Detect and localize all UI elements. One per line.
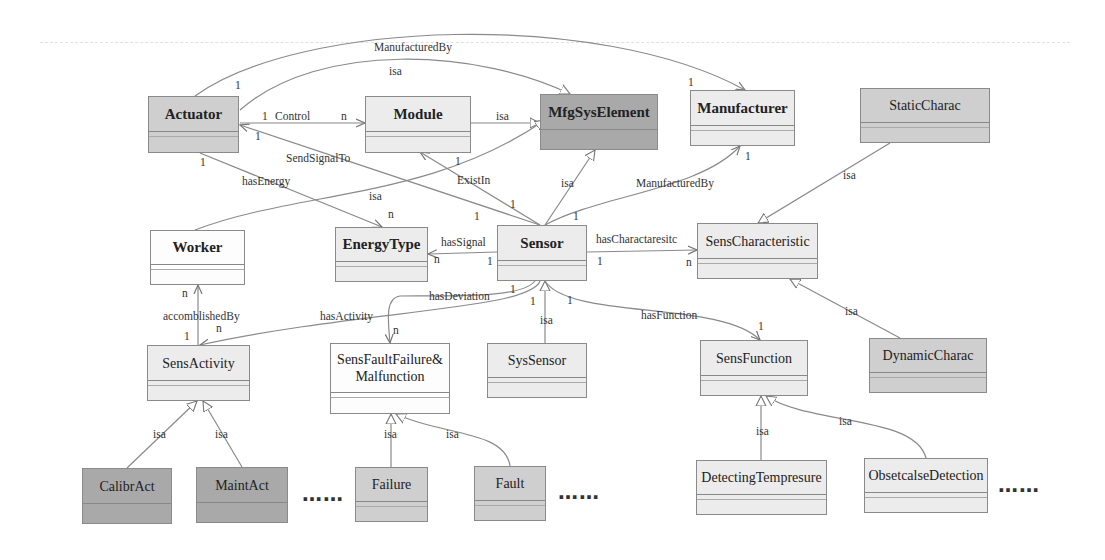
class-name: ObsetcalseDetection [865, 459, 987, 492]
class-name: SensFunction [701, 341, 807, 375]
mult: 1 [255, 130, 261, 142]
class-manufacturer[interactable]: Manufacturer [690, 90, 795, 146]
label-isa-calibr: isa [153, 428, 166, 440]
mult: 1 [487, 255, 493, 267]
mult: 1 [184, 330, 190, 342]
mult: 1 [745, 150, 751, 162]
mult: n [341, 110, 347, 122]
edge-fault-isa [396, 414, 510, 466]
class-name: EnergyType [336, 228, 427, 261]
class-name: Worker [151, 231, 244, 264]
class-sensactivity[interactable]: SensActivity [147, 345, 250, 401]
mult: 1 [573, 210, 579, 222]
label-hasenergy: hasEnergy [242, 175, 290, 187]
mult: 1 [510, 283, 516, 295]
class-name: Fault [475, 467, 545, 500]
label-accomblishedby: accomblishedBy [163, 310, 240, 322]
edge-hascharacteristic [587, 250, 697, 252]
mult: 1 [262, 110, 268, 122]
class-name: StaticCharac [861, 89, 989, 122]
edge-hasenergy [200, 153, 382, 227]
class-sensfaultfailure-malfunction[interactable]: SensFaultFailure& Malfunction [330, 343, 450, 414]
label-sendsignalto: SendSignalTo [286, 152, 350, 164]
label-isa-module: isa [496, 110, 509, 122]
class-name-line1: SensFaultFailure& [337, 351, 443, 368]
more-activities-ellipsis: …… [302, 482, 344, 506]
class-syssensor[interactable]: SysSensor [487, 343, 587, 398]
more-faults-ellipsis: …… [558, 480, 600, 504]
edge-static-isa [758, 143, 890, 223]
mult: 1 [567, 294, 573, 306]
mult: n [182, 287, 188, 299]
label-isa-static: isa [843, 169, 856, 181]
class-detectingtempresure[interactable]: DetectingTempresure [696, 460, 827, 515]
edge-actuator-manufacturedby [195, 34, 745, 96]
class-name: SysSensor [488, 344, 586, 377]
class-mfgsyselement[interactable]: MfgSysElement [540, 94, 658, 150]
class-name: Module [366, 97, 470, 131]
class-name: MaintAct [197, 468, 287, 502]
mult: 1 [455, 155, 461, 167]
mult: n [393, 324, 399, 336]
class-calibract[interactable]: CalibrAct [82, 468, 172, 524]
class-failure[interactable]: Failure [355, 467, 428, 522]
class-obsetcalsedetection[interactable]: ObsetcalseDetection [864, 458, 988, 513]
mult: 1 [758, 320, 764, 332]
mult: 1 [200, 156, 206, 168]
class-senscharacteristic[interactable]: SensCharacteristic [697, 223, 818, 279]
mult: 1 [474, 210, 480, 222]
class-name-line2: Malfunction [355, 368, 424, 385]
class-module[interactable]: Module [365, 96, 471, 153]
label-control: Control [275, 110, 310, 122]
label-isa-failure: isa [384, 428, 397, 440]
class-actuator[interactable]: Actuator [148, 96, 239, 153]
label-isa-obst: isa [839, 415, 852, 427]
class-name: DetectingTempresure [697, 461, 826, 494]
class-name: Sensor [498, 226, 586, 260]
label-isa-top: isa [389, 65, 402, 77]
mult: n [686, 256, 692, 268]
label-existin: ExistIn [457, 174, 490, 186]
more-functions-ellipsis: …… [998, 473, 1040, 497]
class-name: SensFaultFailure& Malfunction [331, 344, 449, 392]
label-manufacturedby-sensor: ManufacturedBy [636, 177, 714, 189]
mult: 1 [530, 295, 536, 307]
class-name: Manufacturer [691, 91, 794, 125]
label-isa-fault: isa [446, 428, 459, 440]
mult: n [434, 253, 440, 265]
label-isa-worker: isa [369, 190, 382, 202]
class-fault[interactable]: Fault [474, 466, 546, 521]
label-isa-detect: isa [756, 425, 769, 437]
edge-existin [420, 152, 540, 225]
label-isa-dynamic: isa [845, 305, 858, 317]
label-isa-syssensor: isa [540, 314, 553, 326]
mult: 1 [510, 198, 516, 210]
label-isa-maint: isa [215, 428, 228, 440]
class-sensfunction[interactable]: SensFunction [700, 340, 808, 396]
mult: 1 [597, 255, 603, 267]
label-hasfunction: hasFunction [641, 309, 697, 321]
class-name: Failure [356, 468, 427, 501]
class-worker[interactable]: Worker [150, 230, 245, 285]
label-isa-sensor: isa [561, 177, 574, 189]
class-name: Actuator [149, 97, 238, 131]
class-sensor[interactable]: Sensor [497, 225, 587, 281]
class-staticcharac[interactable]: StaticCharac [860, 88, 990, 143]
label-hassignal: hasSignal [441, 236, 486, 248]
label-hasactivity: hasActivity [320, 310, 373, 322]
class-name: MfgSysElement [541, 95, 657, 129]
class-energytype[interactable]: EnergyType [335, 227, 428, 282]
class-name: CalibrAct [83, 469, 171, 503]
class-name: SensCharacteristic [698, 224, 817, 258]
uml-diagram: Actuator Module MfgSysElement Manufactur… [0, 0, 1105, 560]
class-dynamiccharac[interactable]: DynamicCharac [869, 338, 987, 393]
label-hascharactaresitc: hasCharactaresitc [596, 233, 677, 245]
class-name: SensActivity [148, 346, 249, 380]
edge-obst-isa [766, 396, 926, 458]
mult: 1 [688, 76, 694, 88]
class-maintact[interactable]: MaintAct [196, 467, 288, 523]
mult: 1 [235, 79, 241, 91]
label-manufacturedby-top: ManufacturedBy [374, 41, 452, 53]
mult: n [216, 322, 222, 334]
class-name: DynamicCharac [870, 339, 986, 372]
